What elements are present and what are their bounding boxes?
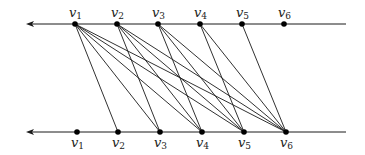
top-node-t5 [239, 21, 245, 27]
top-label-t4: v4 [194, 5, 207, 21]
bottom-node-b3 [157, 129, 163, 135]
top-node-t6 [281, 21, 287, 27]
bottom-label-b2: v2 [112, 135, 125, 151]
edge-t3-b5 [158, 24, 244, 132]
bottom-label-b1: v1 [71, 135, 84, 151]
bottom-node-b4 [199, 129, 205, 135]
edge-t4-b5 [200, 24, 244, 132]
edge-t2-b5 [117, 24, 244, 132]
bottom-label-b3: v3 [154, 135, 167, 151]
edge-t3-b4 [158, 24, 202, 132]
top-label-t3: v3 [152, 5, 165, 21]
top-node-t3 [155, 21, 161, 27]
edge-t4-b6 [200, 24, 286, 132]
edge-t2-b3 [117, 24, 160, 132]
bottom-label-b5: v5 [238, 135, 251, 151]
top-label-t2: v2 [111, 5, 124, 21]
edge-t1-b3 [75, 24, 160, 132]
top-label-t6: v6 [278, 5, 291, 21]
edges [75, 24, 286, 132]
top-label-t5: v5 [236, 5, 249, 21]
bottom-node-b5 [241, 129, 247, 135]
bottom-node-b2 [115, 129, 121, 135]
bipartite-diagram: v1v2v3v4v5v6v1v2v3v4v5v6 [0, 0, 365, 155]
edge-t5-b6 [242, 24, 286, 132]
top-node-t4 [197, 21, 203, 27]
edge-t1-b2 [75, 24, 118, 132]
bottom-label-b6: v6 [280, 135, 293, 151]
top-node-t2 [114, 21, 120, 27]
edge-t2-b4 [117, 24, 202, 132]
top-node-t1 [72, 21, 78, 27]
bottom-node-b1 [74, 129, 80, 135]
bottom-node-b6 [283, 129, 289, 135]
top-label-t1: v1 [69, 5, 82, 21]
bottom-label-b4: v4 [196, 135, 209, 151]
